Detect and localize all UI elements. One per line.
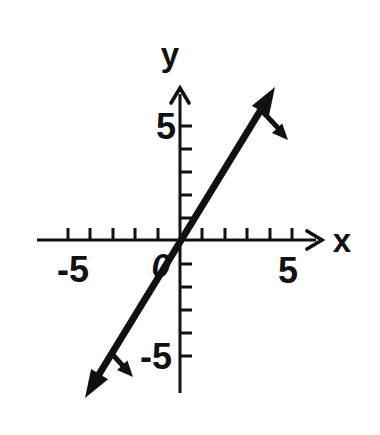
y-axis-label: y (161, 36, 180, 73)
x-tick-label-neg5: -5 (57, 249, 89, 290)
x-axis-label: x (333, 222, 352, 259)
y-tick-label-pos5: 5 (156, 106, 176, 147)
coordinate-plane: y x 5 -5 -5 5 0 (0, 0, 380, 435)
perpendicular-arrow-lower (112, 354, 133, 377)
perpendicular-arrow-lower-shaft (112, 354, 124, 367)
plotted-line-arrowhead-lower-icon (85, 369, 108, 398)
perpendicular-arrow-upper-shaft (261, 110, 279, 129)
perpendicular-arrow-upper (261, 110, 288, 140)
graph-figure: y x 5 -5 -5 5 0 (0, 0, 380, 435)
x-tick-label-pos5: 5 (278, 250, 298, 291)
y-tick-label-neg5: -5 (140, 336, 172, 377)
